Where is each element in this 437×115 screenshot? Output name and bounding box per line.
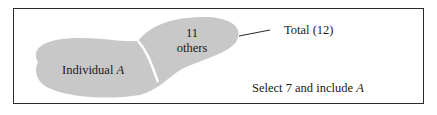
total-text: Total (12)	[284, 23, 333, 37]
total-label: Total (12)	[284, 24, 333, 37]
instruction-label: Select 7 and include A	[252, 82, 364, 95]
others-text: others	[177, 41, 208, 55]
instruction-text: Select 7 and include	[252, 81, 353, 95]
instruction-variable: A	[356, 81, 364, 95]
total-pointer-line	[239, 30, 270, 36]
individual-label: Individual A	[62, 64, 124, 77]
others-count: 11	[186, 26, 198, 40]
footprint-shape	[0, 0, 437, 115]
others-label: others	[167, 42, 217, 55]
individual-variable: A	[117, 63, 125, 77]
individual-text: Individual	[62, 63, 113, 77]
others-count-label: 11	[172, 27, 212, 40]
